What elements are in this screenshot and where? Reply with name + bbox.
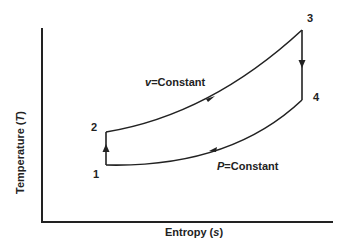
constant-text: =Constant [224,160,278,172]
constant-text: =Constant [151,76,205,88]
arrow-down-icon [299,60,306,68]
y-axis-close: ) [14,111,26,115]
ts-diagram: 2 1 3 4 v=Constant P=Constant Entropy (s… [0,0,350,249]
constant-volume-label: v=Constant [145,76,206,88]
y-axis-label: Temperature (T) [14,111,26,194]
process-4-1-constant-pressure [106,100,302,165]
arrow-up-icon [103,144,110,152]
arrow-left-icon [209,147,217,152]
constant-pressure-label: P=Constant [217,160,279,172]
diagram-canvas: 2 1 3 4 v=Constant P=Constant Entropy (s… [0,0,350,249]
x-axis-close: ) [219,226,223,238]
point-label-1: 1 [93,168,99,180]
y-axis-text: Temperature ( [14,121,26,194]
x-axis-text: Entropy ( [165,226,214,238]
point-label-3: 3 [307,12,313,24]
x-axis-label: Entropy (s) [165,226,223,238]
point-label-2: 2 [91,121,97,133]
point-label-4: 4 [313,91,320,103]
